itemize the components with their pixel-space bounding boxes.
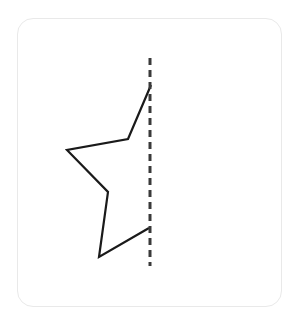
- half-star-outline: [67, 85, 151, 257]
- diagram-canvas: [0, 0, 300, 325]
- figure-stage: [0, 0, 300, 325]
